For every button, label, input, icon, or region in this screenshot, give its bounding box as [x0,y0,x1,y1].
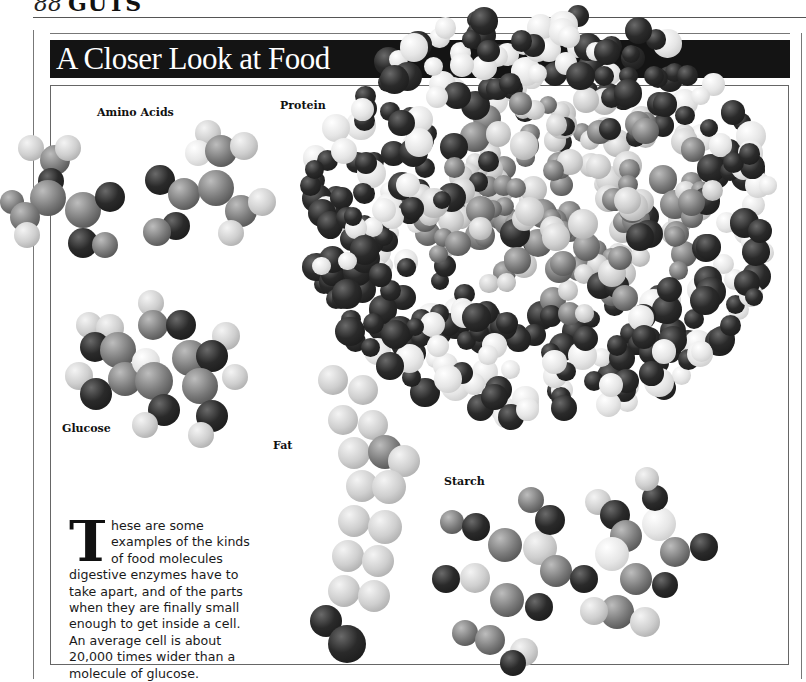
atom [230,132,258,160]
atom [490,583,524,617]
atom [396,173,420,197]
atom [477,40,499,62]
atom [748,219,772,243]
atom [516,398,539,421]
atom [372,470,406,504]
atom [450,53,474,77]
atom [500,650,526,676]
atom [434,365,462,393]
atom [691,341,712,362]
atom [614,79,643,108]
atom [632,118,659,145]
atom [660,537,690,567]
protein-molecule [300,0,780,440]
atom [433,191,451,209]
atom [432,565,460,593]
running-head: 88GUTS [34,0,142,16]
atom [511,30,532,51]
atom [543,160,564,181]
atom [335,317,364,346]
atom [691,87,710,106]
atom [479,274,499,294]
atom [568,209,598,239]
atom [361,338,380,357]
atom [652,572,678,598]
atom [478,151,499,172]
starch-molecule [430,455,730,675]
atom [607,335,628,356]
atom [558,280,578,300]
atom [622,45,640,63]
atom [570,565,598,593]
atom [401,197,424,220]
atom [635,467,659,491]
atom [462,513,490,541]
atom [380,65,409,94]
atom [639,361,664,386]
atom [488,528,522,562]
atom [721,100,745,124]
section-name: GUTS [68,0,142,16]
atom [677,65,698,86]
atom [535,505,565,535]
atom [445,231,471,257]
atom [80,378,112,410]
caption-paragraph: These are some examples of the kinds of … [69,518,259,682]
atom [630,607,660,637]
atom [575,304,593,322]
atom [665,226,685,246]
atom [426,86,448,108]
atom [542,350,566,374]
atom [573,87,599,113]
atom [469,217,492,240]
label-glucose: Glucose [62,422,111,435]
atom [218,220,244,246]
atom [586,154,611,179]
atom [551,395,577,421]
atom [460,563,490,593]
atom [338,437,370,469]
page-title: A Closer Look at Food [56,41,330,77]
atom [351,98,374,121]
atom [138,310,168,340]
atom [608,246,632,270]
atom [486,121,512,147]
atom [452,620,478,646]
atom [372,198,396,222]
atom [675,106,695,126]
atom [344,207,362,225]
glucose-molecule [0,270,250,450]
atom [681,137,706,162]
atom [594,66,614,86]
atom [248,188,276,216]
atom [690,286,719,315]
atom [595,537,629,571]
atom [312,257,331,276]
atom [739,143,761,165]
atom [626,223,654,251]
right-margin-rule [801,33,802,679]
atom [368,510,402,544]
atom [690,533,718,561]
atom [542,223,570,251]
label-protein: Protein [280,99,326,112]
atom [642,507,676,541]
atom [188,422,214,448]
atom [558,26,580,48]
atom [338,505,370,537]
atom [388,110,414,136]
page-number: 88 [34,0,62,16]
atom [222,364,248,390]
atom [168,178,200,210]
atom [358,580,390,612]
atom [504,247,530,273]
atom [478,345,497,364]
atom [400,33,429,62]
atom [397,258,415,276]
atom [652,339,677,364]
atom [440,510,464,534]
atom [435,17,456,38]
atom [470,7,498,35]
atom [696,234,721,259]
atom [497,273,516,292]
